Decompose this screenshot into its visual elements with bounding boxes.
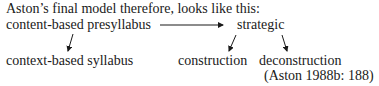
arrow-strategic-to-deconstruction <box>282 35 287 51</box>
diagram-arrows <box>0 0 379 86</box>
arrow-presyllabus-to-syllabus <box>68 34 73 51</box>
arrow-strategic-to-construction <box>229 35 236 51</box>
